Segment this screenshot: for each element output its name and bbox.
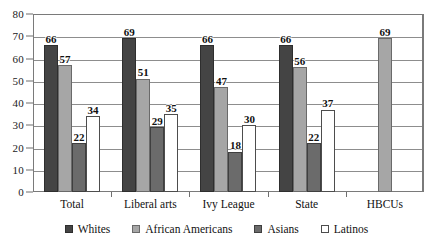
legend-label: Latinos — [334, 223, 369, 235]
x-axis-label-total: Total — [60, 198, 83, 210]
y-axis-tick-mark — [26, 14, 33, 15]
bar-chart: 01020304050607080 6657223469512935664718… — [0, 0, 433, 243]
x-axis-tick-mark — [346, 192, 347, 197]
bar-state-asians: 22 — [307, 143, 321, 192]
legend-swatch-icon — [254, 225, 262, 233]
y-axis-tick-mark — [26, 80, 33, 81]
y-axis-tick-label: 80 — [13, 8, 24, 20]
bar-total-asians: 22 — [72, 143, 86, 192]
bar-value-label: 18 — [230, 140, 241, 152]
bar-total-latinos: 34 — [86, 116, 100, 192]
bar-value-label: 66 — [46, 34, 57, 46]
y-axis: 01020304050607080 — [0, 14, 33, 192]
x-axis-label-ivy-league: Ivy League — [202, 198, 254, 210]
y-axis-tick-label: 40 — [13, 97, 24, 109]
y-axis-tick-mark — [26, 169, 33, 170]
bars-layer: 6657223469512935664718306656223769 — [33, 14, 424, 192]
bar-value-label: 22 — [308, 132, 319, 144]
legend-item-latinos[interactable]: Latinos — [321, 223, 369, 235]
bar-liberal-arts-whites: 69 — [122, 38, 136, 192]
x-axis-tick-mark — [111, 192, 112, 197]
legend-label: Whites — [78, 223, 111, 235]
legend-swatch-icon — [65, 225, 73, 233]
bar-group-total: 66572234 — [33, 14, 111, 192]
bar-group-state: 66562237 — [268, 14, 346, 192]
bar-value-label: 22 — [74, 132, 85, 144]
bar-liberal-arts-african-americans: 51 — [136, 79, 150, 192]
bar-value-label: 29 — [152, 116, 163, 128]
bar-liberal-arts-latinos: 35 — [164, 114, 178, 192]
x-axis-label-hbcus: HBCUs — [367, 198, 403, 210]
bar-value-label: 35 — [166, 103, 177, 115]
bar-state-african-americans: 56 — [293, 67, 307, 192]
bar-value-label: 66 — [280, 34, 291, 46]
bar-value-label: 34 — [88, 105, 99, 117]
legend-swatch-icon — [321, 225, 329, 233]
bar-value-label: 69 — [379, 27, 390, 39]
bar-value-label: 51 — [138, 67, 149, 79]
y-axis-tick-label: 20 — [13, 142, 24, 154]
bar-state-latinos: 37 — [321, 110, 335, 192]
y-axis-tick-label: 60 — [13, 53, 24, 65]
bar-value-label: 37 — [322, 98, 333, 110]
legend-item-asians[interactable]: Asians — [254, 223, 298, 235]
y-axis-tick-label: 30 — [13, 119, 24, 131]
y-axis-tick-mark — [26, 58, 33, 59]
y-axis-tick-mark — [26, 147, 33, 148]
bar-value-label: 66 — [202, 34, 213, 46]
y-axis-tick-label: 70 — [13, 30, 24, 42]
bar-value-label: 69 — [124, 27, 135, 39]
y-axis-tick-mark — [26, 125, 33, 126]
y-axis-tick-label: 0 — [18, 186, 24, 198]
x-axis-label-liberal-arts: Liberal arts — [124, 198, 177, 210]
bar-ivy-league-latinos: 30 — [242, 125, 256, 192]
bar-value-label: 56 — [294, 56, 305, 68]
bar-ivy-league-african-americans: 47 — [214, 87, 228, 192]
y-axis-tick-mark — [26, 192, 33, 193]
bar-group-liberal-arts: 69512935 — [111, 14, 189, 192]
bar-value-label: 30 — [244, 114, 255, 126]
bar-ivy-league-whites: 66 — [200, 45, 214, 192]
y-axis-tick-label: 10 — [13, 164, 24, 176]
bar-value-label: 47 — [216, 76, 227, 88]
legend-item-whites[interactable]: Whites — [65, 223, 111, 235]
y-axis-tick-mark — [26, 36, 33, 37]
y-axis-tick-mark — [26, 103, 33, 104]
bar-group-hbcus: 69 — [346, 14, 424, 192]
bar-value-label: 57 — [60, 54, 71, 66]
legend-label: African Americans — [145, 223, 232, 235]
chart-legend: WhitesAfrican AmericansAsiansLatinos — [0, 219, 433, 239]
x-axis-tick-mark — [268, 192, 269, 197]
bar-total-whites: 66 — [44, 45, 58, 192]
bar-group-ivy-league: 66471830 — [189, 14, 267, 192]
y-axis-tick-label: 50 — [13, 75, 24, 87]
bar-hbcus-african-americans: 69 — [378, 38, 392, 192]
bar-liberal-arts-asians: 29 — [150, 127, 164, 192]
legend-label: Asians — [267, 223, 298, 235]
legend-swatch-icon — [132, 225, 140, 233]
legend-item-african-americans[interactable]: African Americans — [132, 223, 232, 235]
bar-state-whites: 66 — [279, 45, 293, 192]
x-axis: TotalLiberal artsIvy LeagueStateHBCUs — [33, 192, 424, 214]
bar-ivy-league-asians: 18 — [228, 152, 242, 192]
x-axis-label-state: State — [295, 198, 318, 210]
bar-total-african-americans: 57 — [58, 65, 72, 192]
x-axis-tick-mark — [189, 192, 190, 197]
